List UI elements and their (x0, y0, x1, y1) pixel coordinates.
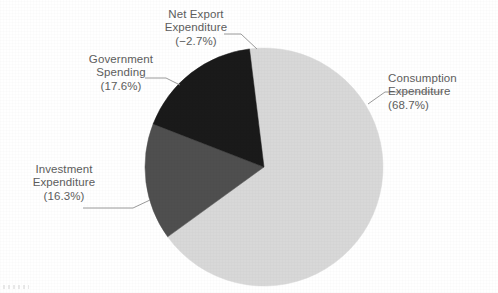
slice-label-government: Government Spending (17.6%) (58, 53, 184, 93)
slice-label-consumption: Consumption Expenditure (68.7%) (388, 72, 457, 112)
slice-label-government-value: (17.6%) (58, 80, 184, 93)
slice-label-net-export-line2: Expenditure (128, 21, 264, 34)
slice-label-consumption-line1: Consumption (388, 72, 457, 85)
slice-label-government-line2: Spending (58, 66, 184, 79)
scan-artifact (3, 285, 29, 289)
slice-label-net-export-value: (−2.7%) (128, 35, 264, 48)
slice-label-investment-value: (16.3%) (2, 190, 126, 203)
slice-label-investment-line2: Expenditure (2, 176, 126, 189)
slice-label-net-export: Net Export Expenditure (−2.7%) (128, 8, 264, 48)
slice-label-investment: Investment Expenditure (16.3%) (2, 163, 126, 203)
pie-chart: Consumption Expenditure (68.7%) Net Expo… (0, 0, 498, 293)
slice-label-net-export-line1: Net Export (128, 8, 264, 21)
slice-label-investment-line1: Investment (2, 163, 126, 176)
slice-label-government-line1: Government (58, 53, 184, 66)
slice-label-consumption-line2: Expenditure (388, 85, 457, 98)
slice-label-consumption-value: (68.7%) (388, 99, 457, 112)
